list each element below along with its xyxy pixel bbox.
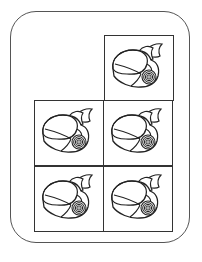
shell-icon: [104, 101, 172, 165]
shell-icon: [35, 167, 103, 231]
shell-icon: [104, 167, 172, 231]
shell-cell-r2-c1: [103, 166, 173, 232]
shell-icon: [105, 36, 173, 100]
shell-icon: [35, 101, 103, 165]
shell-cell-r2-c0: [34, 166, 104, 232]
shell-cell-r1-c1: [103, 100, 173, 166]
shell-cell-r1-c0: [34, 100, 104, 166]
shell-cell-r0-c1: [104, 35, 174, 101]
